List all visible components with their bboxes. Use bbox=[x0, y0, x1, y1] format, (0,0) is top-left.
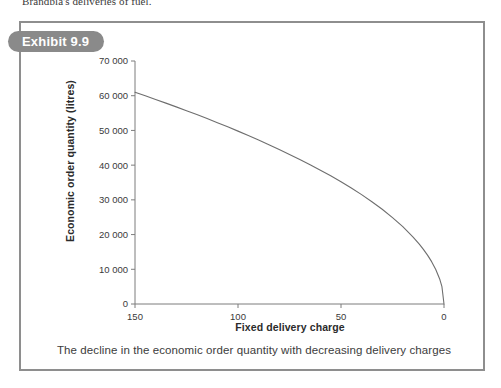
y-tick-label: 10 000 bbox=[99, 264, 128, 275]
x-axis-title: Fixed delivery charge bbox=[135, 321, 445, 333]
y-tick-label: 0 bbox=[123, 298, 128, 309]
y-axis-title: Economic order quantity (litres) bbox=[64, 66, 76, 256]
exhibit-caption: The decline in the economic order quanti… bbox=[33, 344, 475, 356]
y-tick-label: 20 000 bbox=[99, 229, 128, 240]
exhibit-number-badge: Exhibit 9.9 bbox=[8, 31, 104, 52]
y-tick-label: 70 000 bbox=[99, 55, 128, 66]
y-tick-label: 40 000 bbox=[99, 160, 128, 171]
data-series-line bbox=[135, 92, 444, 304]
chart-figure: 010 00020 00030 00040 00050 00060 00070 … bbox=[21, 23, 487, 373]
y-tick-label: 50 000 bbox=[99, 125, 128, 136]
y-tick-label: 60 000 bbox=[99, 90, 128, 101]
exhibit-container: 010 00020 00030 00040 00050 00060 00070 … bbox=[19, 21, 485, 371]
page-body-text: Brandbla's deliveries of fuel. bbox=[22, 0, 462, 7]
y-tick-label: 30 000 bbox=[99, 194, 128, 205]
